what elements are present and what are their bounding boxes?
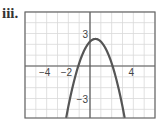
- y-tick-label: −3: [77, 94, 89, 105]
- x-tick-label: −2: [61, 67, 73, 78]
- axes: [25, 12, 155, 118]
- x-tick-label: −4: [39, 67, 51, 78]
- parabola-graph: −4−243−3: [0, 0, 161, 124]
- y-tick-label: 3: [82, 29, 88, 40]
- x-tick-label: 4: [129, 67, 135, 78]
- parabola-curve: [66, 39, 125, 118]
